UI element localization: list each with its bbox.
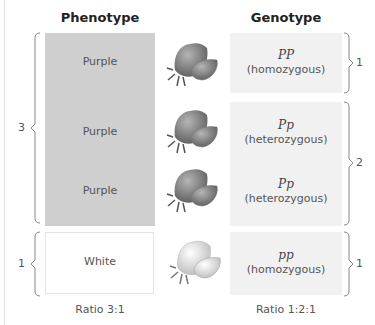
genotype-desc-4: (homozygous) [230,263,342,276]
purple-flower-icon [165,166,225,216]
white-flower-icon [168,238,228,288]
phenotype-ratio: Ratio 3:1 [45,303,155,316]
genotype-symbol-2: Pp [230,118,342,132]
genotype-header: Genotype [230,10,342,25]
right-brace-count-1: 1 [356,56,363,69]
phenotype-label-3: Purple [45,184,155,197]
genotype-desc-1: (homozygous) [230,63,342,76]
phenotype-label-1: Purple [45,55,155,68]
left-brace-1 [30,229,50,299]
purple-flower-icon [165,107,225,157]
phenotype-header: Phenotype [45,10,155,25]
right-brace-count-3: 1 [356,257,363,270]
genotype-symbol-1: PP [230,48,342,62]
left-border-rule [4,0,5,325]
genotype-ratio: Ratio 1:2:1 [230,303,342,316]
genotype-symbol-3: Pp [230,177,342,191]
genotype-desc-2: (heterozygous) [230,133,342,146]
genotype-symbol-4: pp [230,248,342,262]
genotype-desc-3: (heterozygous) [230,192,342,205]
right-brace-count-2: 2 [356,156,363,169]
left-brace-count-1: 1 [18,257,25,270]
purple-flower-icon [165,40,225,90]
left-brace-count-3: 3 [18,121,25,134]
left-brace-3 [30,30,50,230]
phenotype-label-4: White [45,255,155,268]
phenotype-label-2: Purple [45,125,155,138]
